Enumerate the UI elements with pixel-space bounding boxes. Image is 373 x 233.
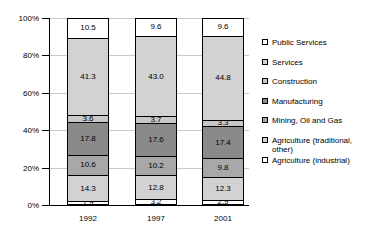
ytick-60 xyxy=(42,93,50,94)
legend-item-label: Manufacturing xyxy=(272,97,323,106)
segment-agriculture-traditional: 12.3 xyxy=(202,177,244,200)
legend: Public Services Services Construction Ma… xyxy=(262,38,370,175)
legend-swatch-icon xyxy=(262,39,268,45)
segment-public-services: 10.5 xyxy=(67,18,109,38)
ytick-0 xyxy=(42,205,50,206)
legend-swatch-icon xyxy=(262,157,268,163)
segment-value: 17.8 xyxy=(80,135,96,143)
segment-value: 10.2 xyxy=(148,162,164,170)
segment-value: 12.3 xyxy=(215,185,231,193)
bar-1997[interactable]: 3.2 12.8 10.2 17.6 3.7 43.0 xyxy=(135,18,177,205)
segment-manufacturing: 17.8 xyxy=(67,122,109,155)
legend-swatch-icon xyxy=(262,78,268,84)
xlabel-2001: 2001 xyxy=(214,214,232,223)
segment-value: 17.6 xyxy=(148,136,164,144)
legend-item-mining-oil-gas[interactable]: Mining, Oil and Gas xyxy=(262,116,370,125)
segment-mining-oil-gas: 9.8 xyxy=(202,158,244,176)
legend-swatch-icon xyxy=(262,117,268,123)
segment-value: 41.3 xyxy=(80,73,96,81)
legend-item-public-services[interactable]: Public Services xyxy=(262,38,370,47)
legend-item-construction[interactable]: Construction xyxy=(262,77,370,86)
legend-item-agriculture-industrial[interactable]: Agriculture (industrial) xyxy=(262,156,370,165)
bar-group: 1.9 14.3 10.6 17.8 3.6 41.3 xyxy=(50,18,249,205)
segment-agriculture-industrial: 1.9 xyxy=(67,201,109,205)
segment-value: 9.6 xyxy=(217,23,228,31)
segment-value: 9.6 xyxy=(150,23,161,31)
ytick-40 xyxy=(42,130,50,131)
ylabel-80: 80% xyxy=(23,51,39,60)
segment-value: 14.3 xyxy=(80,185,96,193)
legend-item-label: Agriculture (traditional, other) xyxy=(272,136,370,154)
legend-item-label: Agriculture (industrial) xyxy=(272,156,350,165)
ytick-20 xyxy=(42,168,50,169)
segment-public-services: 9.6 xyxy=(202,18,244,36)
segment-value: 3.6 xyxy=(82,115,93,123)
segment-construction: 3.6 xyxy=(67,115,109,122)
segment-services: 44.8 xyxy=(202,36,244,120)
segment-manufacturing: 17.4 xyxy=(202,126,244,159)
bar-1992[interactable]: 1.9 14.3 10.6 17.8 3.6 41.3 xyxy=(67,18,109,205)
segment-manufacturing: 17.6 xyxy=(135,123,177,156)
segment-mining-oil-gas: 10.2 xyxy=(135,156,177,175)
legend-swatch-icon xyxy=(262,98,268,104)
segment-agriculture-industrial: 3.2 xyxy=(135,199,177,205)
legend-swatch-icon xyxy=(262,137,268,143)
segment-value: 10.6 xyxy=(80,161,96,169)
segment-value: 3.2 xyxy=(150,198,161,206)
segment-services: 43.0 xyxy=(135,36,177,116)
segment-services: 41.3 xyxy=(67,38,109,115)
ylabel-0: 0% xyxy=(27,201,39,210)
segment-value: 10.5 xyxy=(80,24,96,32)
legend-item-label: Mining, Oil and Gas xyxy=(272,116,342,125)
legend-item-manufacturing[interactable]: Manufacturing xyxy=(262,97,370,106)
legend-item-agriculture-traditional[interactable]: Agriculture (traditional, other) xyxy=(262,136,370,154)
xlabel-1992: 1992 xyxy=(79,214,97,223)
bar-2001[interactable]: 2.9 12.3 9.8 17.4 3.3 44.8 xyxy=(202,18,244,205)
segment-value: 12.8 xyxy=(148,184,164,192)
segment-value: 43.0 xyxy=(148,73,164,81)
segment-value: 17.4 xyxy=(215,139,231,147)
ytick-100 xyxy=(42,18,50,19)
stacked-bar-chart: 100% 80% 60% 40% 20% 0% 1.9 14.3 10.6 xyxy=(0,0,373,233)
segment-construction: 3.7 xyxy=(135,116,177,123)
segment-value: 3.3 xyxy=(217,119,228,127)
legend-item-services[interactable]: Services xyxy=(262,58,370,67)
plot-inner: 100% 80% 60% 40% 20% 0% 1.9 14.3 10.6 xyxy=(50,18,249,205)
segment-construction: 3.3 xyxy=(202,120,244,126)
ylabel-40: 40% xyxy=(23,126,39,135)
segment-agriculture-traditional: 12.8 xyxy=(135,175,177,199)
ytick-80 xyxy=(42,55,50,56)
segment-value: 9.8 xyxy=(217,164,228,172)
legend-item-label: Public Services xyxy=(272,38,327,47)
segment-public-services: 9.6 xyxy=(135,18,177,36)
legend-item-label: Services xyxy=(272,58,303,67)
plot-area: 100% 80% 60% 40% 20% 0% 1.9 14.3 10.6 xyxy=(49,18,249,206)
segment-agriculture-traditional: 14.3 xyxy=(67,175,109,202)
segment-agriculture-industrial: 2.9 xyxy=(202,200,244,205)
segment-value: 44.8 xyxy=(215,74,231,82)
legend-swatch-icon xyxy=(262,59,268,65)
ylabel-60: 60% xyxy=(23,88,39,97)
segment-value: 3.7 xyxy=(150,116,161,124)
ylabel-20: 20% xyxy=(23,163,39,172)
xlabel-1997: 1997 xyxy=(147,214,165,223)
segment-mining-oil-gas: 10.6 xyxy=(67,155,109,175)
legend-item-label: Construction xyxy=(272,77,317,86)
ylabel-100: 100% xyxy=(19,14,39,23)
